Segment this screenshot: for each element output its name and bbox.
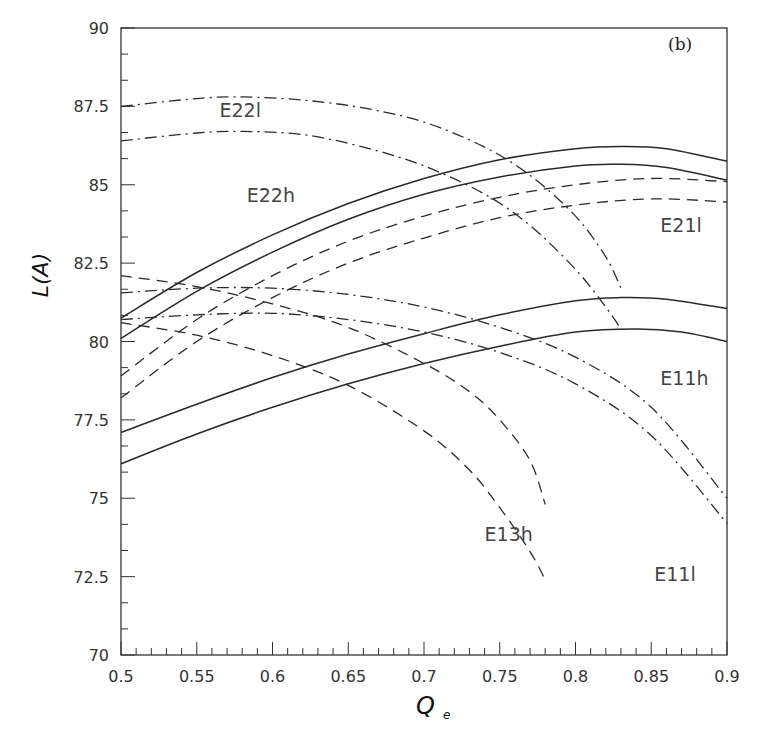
curve-label-e22l: E22l [219,99,260,121]
series-e13h-upper [121,276,545,505]
series-e11l-upper [121,288,727,499]
curve-label-e11h: E11h [660,367,708,389]
chart: 7072.57577.58082.58587.590 0.50.550.60.6… [0,0,759,745]
panel-label: (b) [668,34,692,54]
x-tick-label: 0.65 [330,667,366,686]
series-e22h-upper [121,146,727,317]
x-axis-title-subscript: e [443,708,450,722]
series-e22h-lower [121,164,727,338]
y-axis-ticks: 7072.57577.58082.58587.590 [73,19,135,665]
series-layer [121,97,727,580]
y-tick-label: 87.5 [73,97,109,116]
y-tick-label: 75 [89,489,109,508]
x-axis-title-text: Q [416,692,435,720]
y-tick-label: 72.5 [73,568,109,587]
x-tick-label: 0.75 [482,667,518,686]
curve-label-e21l: E21l [660,214,701,236]
series-e21l-upper [121,178,727,376]
x-tick-label: 0.85 [633,667,669,686]
series-e11l-lower [121,313,727,523]
x-axis-ticks: 0.50.550.60.650.70.750.80.850.9 [108,642,739,686]
series-e21l-lower [121,199,727,398]
y-tick-label: 77.5 [73,411,109,430]
series-e13h-lower [121,323,545,580]
series-e11h-upper [121,297,727,432]
x-tick-label: 0.7 [411,667,436,686]
series-e22l-lower [121,131,621,329]
y-tick-label: 80 [89,333,109,352]
curve-label-e13h: E13h [485,523,533,545]
y-axis-title-text: L(A) [28,253,53,297]
x-tick-label: 0.6 [260,667,285,686]
y-tick-label: 70 [89,646,109,665]
x-tick-label: 0.5 [108,667,133,686]
series-e11h-lower [121,329,727,464]
curve-label-e22h: E22h [247,184,295,206]
y-tick-label: 90 [89,19,109,38]
curve-label-e11l: E11l [654,563,695,585]
series-e22l-upper [121,97,621,288]
y-axis-title: L(A) [28,253,53,297]
x-tick-label: 0.9 [714,667,739,686]
x-axis-title: Q e [416,692,450,722]
y-tick-label: 85 [89,176,109,195]
x-tick-label: 0.8 [563,667,588,686]
y-tick-label: 82.5 [73,254,109,273]
x-tick-label: 0.55 [179,667,215,686]
